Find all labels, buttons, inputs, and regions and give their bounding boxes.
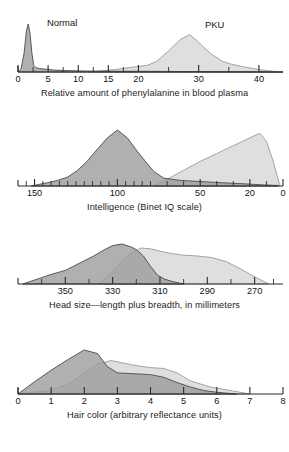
axis-tick-label: 4: [148, 396, 153, 407]
axis-tick-label: 10: [73, 74, 83, 85]
axis-tick-label: 20: [245, 188, 255, 199]
area-series-pku: [90, 35, 280, 72]
axis-tick-label: 3: [115, 396, 120, 407]
axis-tick-label: 0: [280, 188, 285, 199]
axis-tick-label: 50: [195, 188, 205, 199]
axis-tick-label: 40: [254, 74, 264, 85]
chart-panel-intelligence: 15010050200 Intelligence (Binet IQ scale…: [0, 122, 289, 202]
caption-headsize: Head size—length plus breadth, in millim…: [0, 300, 289, 310]
axis-tick-label: 2: [82, 396, 87, 407]
axis-tick-label: 150: [27, 188, 42, 199]
curve-label-normal: Normal: [47, 17, 77, 28]
chart-panel-haircolor: 012345678 Hair color (arbitrary reflecta…: [0, 344, 289, 412]
axis-tick-label: 330: [105, 286, 120, 297]
axis-tick-label: 6: [214, 396, 219, 407]
distribution-figure: 051015203040 Normal PKU Relative amount …: [0, 0, 289, 452]
axis-tick-label: 20: [133, 74, 143, 85]
axis-tick-label: 30: [194, 74, 204, 85]
axis-tick-label: 350: [58, 286, 73, 297]
axis-tick-label: 100: [110, 188, 125, 199]
axis-tick-label: 1: [49, 396, 54, 407]
axis-tick-labels-headsize: 350330310290270: [0, 286, 289, 298]
axis-tick-labels-phenylalanine: 051015203040: [0, 74, 289, 86]
axis-tick-label: 0: [15, 74, 20, 85]
axis-tick-labels-intelligence: 15010050200: [0, 188, 289, 200]
axis-tick-label: 8: [280, 396, 285, 407]
axis-tick-label: 5: [46, 74, 51, 85]
axis-tick-label: 7: [247, 396, 252, 407]
chart-panel-phenylalanine: 051015203040 Normal PKU Relative amount …: [0, 14, 289, 86]
caption-haircolor: Hair color (arbitrary reflectance units): [0, 410, 289, 420]
axis-tick-label: 0: [15, 396, 20, 407]
axis-tick-label: 5: [181, 396, 186, 407]
curve-label-pku: PKU: [205, 19, 224, 30]
caption-intelligence: Intelligence (Binet IQ scale): [0, 202, 289, 212]
axis-tick-label: 290: [200, 286, 215, 297]
axis-tick-labels-haircolor: 012345678: [0, 396, 289, 408]
axis-tick-label: 15: [103, 74, 113, 85]
chart-panel-headsize: 350330310290270 Head size—length plus br…: [0, 238, 289, 300]
area-series-pku: [154, 133, 280, 186]
axis-tick-label: 310: [152, 286, 167, 297]
caption-phenylalanine: Relative amount of phenylalanine in bloo…: [0, 88, 289, 98]
axis-tick-label: 270: [247, 286, 262, 297]
